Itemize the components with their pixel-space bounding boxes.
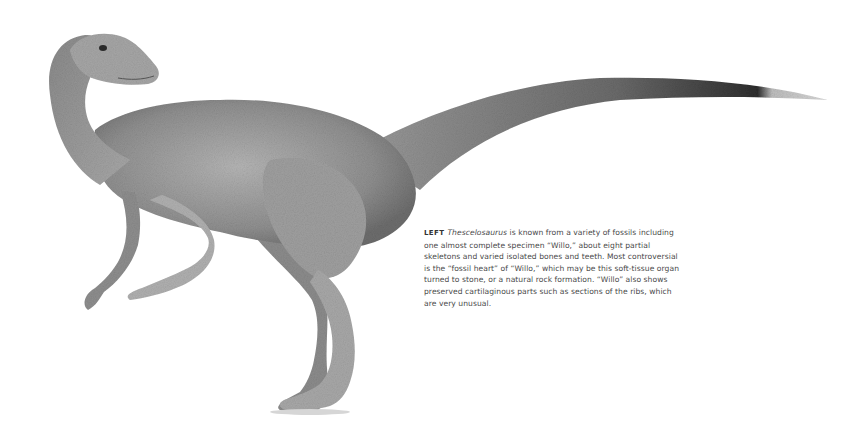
- far-arm: [85, 190, 141, 310]
- caption-taxon: Thescelosaurus: [447, 228, 507, 237]
- figure-caption: LEFTThescelosaurus is known from a varie…: [424, 227, 686, 309]
- book-page: LEFTThescelosaurus is known from a varie…: [0, 0, 848, 436]
- caption-text: is known from a variety of fossils inclu…: [424, 228, 679, 308]
- tail: [360, 78, 828, 190]
- ground-shadow: [270, 409, 350, 415]
- eye: [99, 45, 107, 51]
- caption-lead: LEFT: [424, 229, 444, 237]
- thescelosaurus-illustration: [0, 0, 848, 436]
- body: [94, 100, 416, 248]
